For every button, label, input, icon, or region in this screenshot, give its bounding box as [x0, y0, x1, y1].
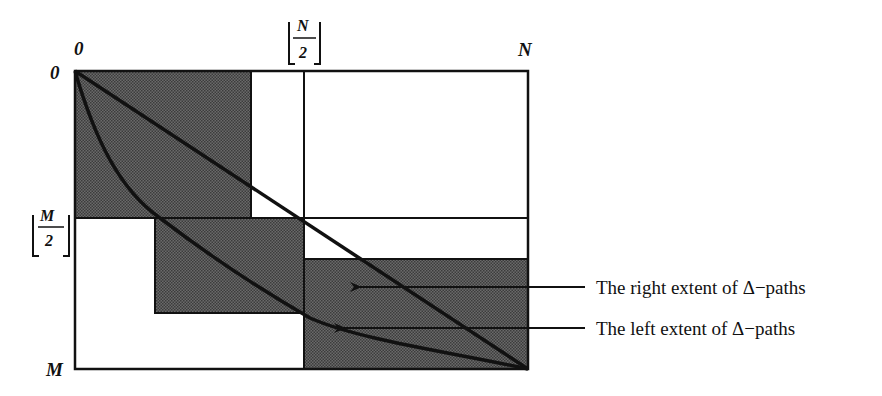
svg-text:N: N	[296, 17, 310, 34]
n-label: N	[517, 39, 533, 60]
svg-text:M: M	[39, 207, 55, 224]
diagram-canvas: 0 0 N M N 2 M 2 The right extent of Δ−pa…	[0, 0, 882, 396]
right-extent-path	[75, 71, 528, 369]
shaded-region-bottom-right	[304, 259, 528, 369]
svg-text:2: 2	[298, 44, 307, 61]
left-extent-legend: The left extent of Δ−paths	[596, 318, 795, 339]
origin-x-label: 0	[74, 38, 84, 59]
right-extent-legend: The right extent of Δ−paths	[596, 277, 806, 298]
origin-y-label: 0	[50, 62, 60, 83]
half-m-label: M 2	[33, 207, 69, 256]
half-n-label: N 2	[289, 17, 320, 64]
m-label: M	[45, 359, 64, 380]
svg-text:2: 2	[44, 232, 53, 249]
